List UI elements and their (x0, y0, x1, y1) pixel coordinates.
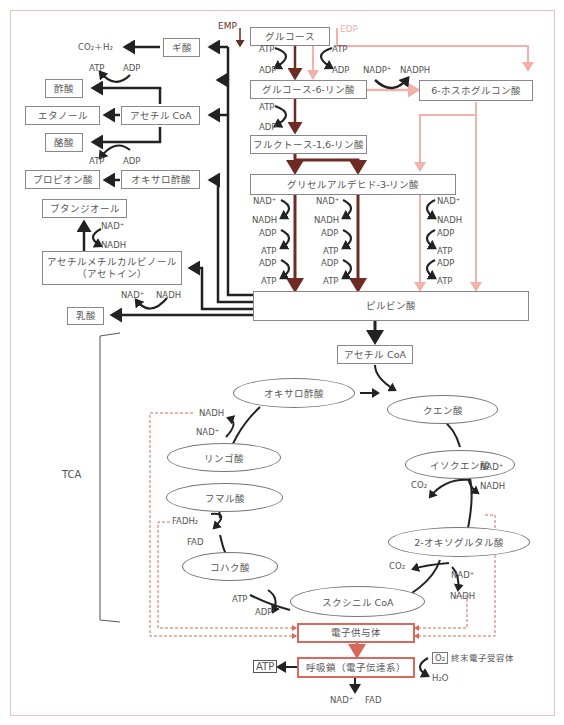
oxaloacetate-node: オキサロ酢酸 (233, 378, 355, 408)
cofactor-adp: ADP (123, 64, 141, 73)
cofactor-nad: NAD⁺ (253, 197, 276, 206)
cofactor-nadh: NADH (437, 216, 462, 225)
acetyl-coa-tca-node: アセチル CoA (337, 345, 413, 364)
cofactor-nadh: NADH (101, 241, 126, 250)
butanediol-node: ブタンジオール (42, 199, 127, 218)
oxoglutarate-node: 2-オキソグルタル酸 (388, 527, 530, 557)
cofactor-atp: ATP (323, 247, 338, 256)
cofactor-adp: ADP (321, 229, 339, 238)
cofactor-atp: ATP (89, 64, 104, 73)
cofactor-atp: ATP (89, 157, 104, 166)
cofactor-atp: ATP (437, 247, 452, 256)
tca-nad: NAD⁺ (196, 428, 219, 437)
formate-node: ギ酸 (163, 38, 200, 57)
cofactor-atp: ATP (259, 45, 274, 54)
oxaloacetate-ferm-node: オキサロ酢酸 (121, 170, 200, 189)
water-label: H₂O (432, 674, 449, 683)
tca-atp: ATP (232, 595, 247, 604)
succinate-node: コハク酸 (182, 552, 278, 581)
tca-adp: ADP (255, 608, 273, 617)
cofactor-adp: ADP (259, 259, 277, 268)
tca-nadh: NADH (450, 592, 475, 601)
tca-nad: NAD⁺ (451, 571, 474, 580)
acetoin-alias: （アセトイン） (77, 268, 147, 280)
acetoin-node: アセチルメチルカルビノール （アセトイン） (42, 251, 182, 285)
oxygen-label: O₂ 終末電子受容体 (432, 654, 514, 663)
citrate-node: クエン酸 (387, 395, 498, 424)
cofactor-nadp: NADP⁺ (363, 66, 391, 75)
o2-box: O₂ (432, 652, 448, 664)
cofactor-atp: ATP (259, 103, 274, 112)
cofactor-atp: ATP (323, 277, 338, 286)
succinyl-coa-node: スクシニル CoA (290, 586, 425, 617)
tca-nad: NAD⁺ (480, 463, 503, 472)
cofactor-adp: ADP (259, 123, 277, 132)
respiratory-chain-node: 呼吸鎖（電子伝達系） (297, 657, 415, 678)
butyrate-node: 酪酸 (45, 133, 83, 152)
cofactor-adp: ADP (437, 229, 455, 238)
pyruvate-node: ピルビン酸 (253, 291, 529, 321)
g6p-node: グルコース-6-リン酸 (250, 80, 367, 99)
cofactor-nad: NAD⁺ (101, 222, 124, 231)
fumarate-node: フマル酸 (166, 483, 283, 512)
cofactor-adp: ADP (321, 259, 339, 268)
tca-co2: CO₂ (411, 481, 427, 490)
cofactor-atp: ATP (437, 277, 452, 286)
tca-fad: FAD (187, 538, 203, 547)
tca-fadh2: FADH₂ (172, 517, 198, 526)
cofactor-nad: NAD⁺ (121, 291, 144, 300)
cofactor-atp: ATP (332, 45, 347, 54)
cofactor-adp: ADP (259, 66, 277, 75)
emp-label: EMP (218, 22, 237, 31)
malate-node: リンゴ酸 (167, 443, 281, 472)
ethanol-node: エタノール (25, 106, 100, 125)
cofactor-atp: ATP (261, 277, 276, 286)
gap-node: グリセルアルデヒド-3-リン酸 (250, 174, 456, 195)
electron-donor-node: 電子供与体 (297, 623, 415, 643)
cofactor-adp: ADP (437, 259, 455, 268)
terminal-acceptor-label: 終末電子受容体 (451, 653, 514, 663)
cofactor-nadph: NADPH (400, 66, 430, 75)
tca-nadh: NADH (480, 482, 505, 491)
acetate-node: 酢酸 (45, 79, 83, 98)
cofactor-adp: ADP (332, 66, 350, 75)
fad-output: FAD (365, 696, 381, 705)
tca-co2: CO₂ (389, 562, 405, 571)
f16bp-node: フルクトース-1,6-リン酸 (250, 135, 367, 154)
cofactor-nadh: NADH (156, 291, 181, 300)
cofactor-nad: NAD⁺ (437, 197, 460, 206)
cofactor-nadh: NADH (252, 216, 277, 225)
tca-nadh: NADH (199, 409, 224, 418)
cofactor-nadh: NADH (314, 216, 339, 225)
cofactor-atp: ATP (261, 247, 276, 256)
cofactor-adp: ADP (123, 157, 141, 166)
cofactor-adp: ADP (259, 229, 277, 238)
acetoin-name: アセチルメチルカルビノール (47, 256, 177, 268)
propionate-node: プロピオン酸 (25, 170, 100, 189)
acetyl-coa-ferm-node: アセチル CoA (121, 106, 200, 125)
cofactor-nad: NAD⁺ (316, 197, 339, 206)
co2-h2-label: CO₂＋H₂ (78, 43, 113, 52)
lactate-node: 乳酸 (67, 307, 104, 325)
6pg-node: 6-ホスホグルコン酸 (419, 80, 533, 101)
tca-label: TCA (62, 470, 81, 480)
edp-label: EDP (340, 25, 358, 34)
atp-output: ATP (253, 660, 277, 673)
nad-output: NAD⁺ (330, 696, 353, 705)
